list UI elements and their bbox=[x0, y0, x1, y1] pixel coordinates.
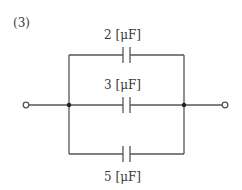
circuit-diagram bbox=[0, 0, 242, 190]
junction-left-icon bbox=[67, 103, 71, 107]
capacitor-top-icon bbox=[123, 47, 130, 63]
terminal-right-icon bbox=[222, 102, 228, 108]
capacitor-middle-icon bbox=[123, 97, 130, 113]
junction-right-icon bbox=[182, 103, 186, 107]
terminal-left-icon bbox=[23, 102, 29, 108]
capacitor-bottom-icon bbox=[123, 146, 130, 162]
